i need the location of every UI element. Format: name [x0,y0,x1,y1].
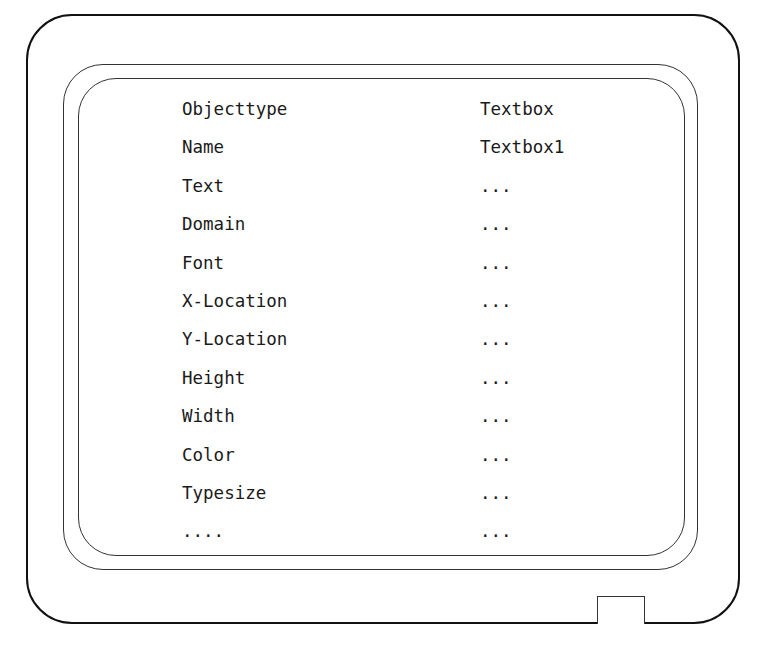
property-row-more: .... ... [182,520,642,558]
property-label: Font [182,252,224,274]
property-row-width: Width ... [182,405,642,443]
property-label: Height [182,367,245,389]
property-value: ... [480,482,512,504]
property-row-y-location: Y-Location ... [182,328,642,366]
property-label: Text [182,175,224,197]
property-label: X-Location [182,290,287,312]
property-value: ... [480,175,512,197]
property-row-text: Text ... [182,175,642,213]
property-value: ... [480,367,512,389]
property-value: ... [480,290,512,312]
property-value: ... [480,444,512,466]
property-row-name: Name Textbox1 [182,136,642,174]
property-row-font: Font ... [182,252,642,290]
property-list: Objecttype Textbox Name Textbox1 Text ..… [182,98,642,559]
property-label: Objecttype [182,98,287,120]
property-label: .... [182,520,224,542]
property-row-domain: Domain ... [182,213,642,251]
property-label: Name [182,136,224,158]
property-row-objecttype: Objecttype Textbox [182,98,642,136]
property-value: ... [480,520,512,542]
property-label: Color [182,444,235,466]
property-row-color: Color ... [182,444,642,482]
property-label: Typesize [182,482,266,504]
property-label: Y-Location [182,328,287,350]
property-row-typesize: Typesize ... [182,482,642,520]
property-row-x-location: X-Location ... [182,290,642,328]
property-label: Width [182,405,235,427]
property-row-height: Height ... [182,367,642,405]
monitor-button [597,596,645,624]
property-value: Textbox1 [480,136,564,158]
property-value: ... [480,405,512,427]
property-label: Domain [182,213,245,235]
property-value: ... [480,328,512,350]
property-value: Textbox [480,98,554,120]
property-value: ... [480,213,512,235]
property-value: ... [480,252,512,274]
